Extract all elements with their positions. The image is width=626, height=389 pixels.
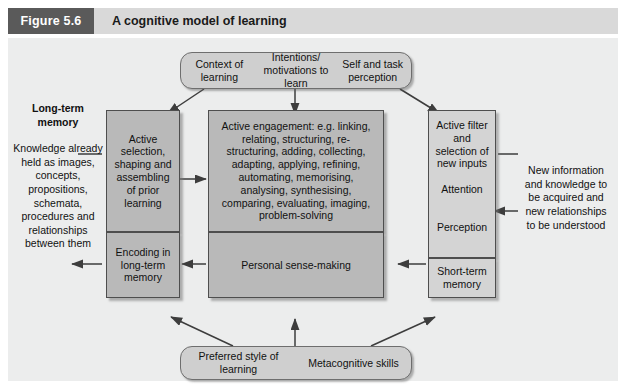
active-engagement-box: Active engagement: e.g. linking, relatin… (208, 110, 384, 232)
attention-label: Attention (433, 183, 491, 196)
new-information-description: New information and knowledge to be acqu… (520, 164, 612, 232)
diagram-canvas: Context of learning Intentions/ motivati… (8, 38, 618, 381)
top-band-item-intentions: Intentions/ motivations to learn (258, 51, 335, 89)
bottom-band-item-metacognitive: Metacognitive skills (296, 357, 411, 370)
arrow-metacognitive-to-short-term (371, 317, 435, 346)
top-band-item-context: Context of learning (181, 58, 258, 84)
figure-number-badge: Figure 5.6 (8, 8, 94, 34)
bottom-influences-band: Preferred style of learning Metacognitiv… (180, 346, 412, 380)
active-filter-box: Active filter and selection of new input… (428, 110, 496, 258)
encoding-long-term-memory-box: Encoding in long-term memory (106, 232, 180, 298)
bottom-band-item-preferred-style: Preferred style of learning (181, 350, 296, 376)
long-term-memory-description: Knowledge already held as images, concep… (12, 142, 104, 251)
short-term-memory-box: Short-term memory (428, 258, 496, 298)
arrow-style-to-encoding (171, 317, 233, 346)
top-band-item-self-task: Self and task perception (334, 58, 411, 84)
figure-title: A cognitive model of learning (94, 8, 618, 34)
active-selection-box: Active selection, shaping and assembling… (106, 110, 180, 232)
long-term-memory-heading: Long-term memory (16, 102, 100, 129)
active-filter-label: Active filter and selection of new input… (433, 119, 491, 170)
top-influences-band: Context of learning Intentions/ motivati… (180, 52, 412, 89)
perception-label: Perception (433, 221, 491, 234)
figure-header: Figure 5.6 A cognitive model of learning (8, 8, 618, 34)
personal-sense-making-box: Personal sense-making (208, 232, 384, 298)
